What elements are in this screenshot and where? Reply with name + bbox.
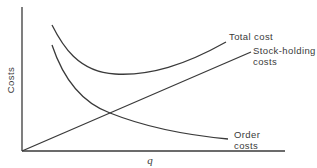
stock-holding-label-line1: Stock-holding <box>253 45 316 56</box>
total-cost-label: Total cost <box>229 31 273 42</box>
y-axis-label: Costs <box>5 67 16 93</box>
total-cost-curve <box>52 25 226 74</box>
order-costs-label-line2: costs <box>234 140 258 151</box>
stock-holding-label-line2: costs <box>253 56 277 67</box>
x-axis-label: q <box>147 154 153 166</box>
order-costs-curve <box>52 45 228 139</box>
order-costs-label-line1: Order <box>234 129 260 140</box>
cost-chart: Costs q Total cost Stock-holding costs O… <box>0 0 317 168</box>
stock-holding-costs-line <box>22 52 251 151</box>
